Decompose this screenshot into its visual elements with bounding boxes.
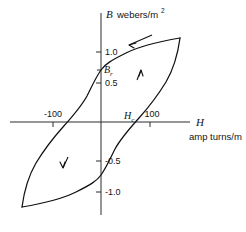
y-tick-label-0.5: 0.5 bbox=[105, 78, 118, 88]
coercivity-label: Hc bbox=[123, 110, 135, 124]
remanence-label: Br bbox=[104, 64, 113, 78]
arrow-upper-left bbox=[129, 35, 152, 48]
y-tick-label-1.0: 1.0 bbox=[105, 47, 118, 57]
hysteresis-figure: B webers/m 2 H amp turns/m 1.0 0.5 -0.5 … bbox=[0, 0, 246, 232]
arrow-left-down bbox=[60, 157, 68, 168]
x-axis-units: amp turns/m bbox=[189, 131, 242, 142]
y-tick-label-neg-1.0: -1.0 bbox=[105, 187, 121, 197]
remanence-subscript: r bbox=[110, 70, 113, 78]
arrow-right-up bbox=[137, 70, 143, 80]
y-tick-label-neg-0.5: -0.5 bbox=[105, 156, 121, 166]
bh-loop-plot: B webers/m 2 H amp turns/m 1.0 0.5 -0.5 … bbox=[0, 0, 246, 232]
x-tick-label-100: 100 bbox=[144, 109, 159, 119]
y-axis-symbol: B bbox=[106, 8, 113, 20]
x-tick-label-neg-100: -100 bbox=[44, 109, 62, 119]
y-axis-units: webers/m bbox=[116, 9, 158, 20]
x-axis-symbol: H bbox=[195, 116, 205, 128]
y-axis-units-exponent: 2 bbox=[161, 7, 165, 14]
